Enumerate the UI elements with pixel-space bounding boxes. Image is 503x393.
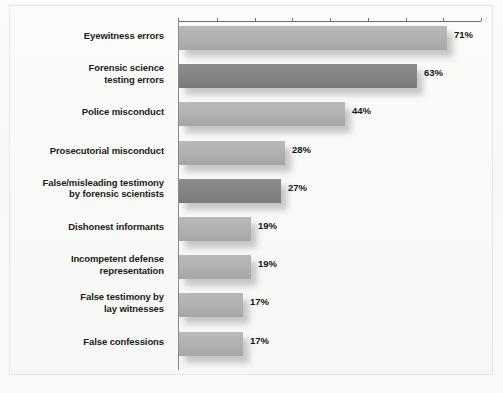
bar-row: Forensic sciencetesting errors63% bbox=[0, 62, 503, 100]
axis-tick-20 bbox=[255, 18, 256, 21]
bar[interactable] bbox=[179, 255, 251, 279]
bar-row: False/misleading testimonyby forensic sc… bbox=[0, 177, 503, 215]
bar-row: Police misconduct44% bbox=[0, 100, 503, 138]
category-label: Eyewitness errors bbox=[14, 30, 164, 42]
bar-chart: Eyewitness errors71%Forensic sciencetest… bbox=[0, 0, 503, 372]
bar[interactable] bbox=[179, 64, 417, 88]
category-label-line1: Dishonest informants bbox=[14, 221, 164, 233]
bar-value-label: 44% bbox=[352, 105, 371, 116]
category-label: Dishonest informants bbox=[14, 221, 164, 233]
bar-value-label: 28% bbox=[292, 144, 311, 155]
bar-value-label: 27% bbox=[288, 182, 307, 193]
bar-value-label: 17% bbox=[250, 335, 269, 346]
bar[interactable] bbox=[179, 179, 281, 203]
category-label: Prosecutorial misconduct bbox=[14, 145, 164, 157]
category-label-line1: False testimony by bbox=[14, 291, 164, 303]
bar-container[interactable] bbox=[179, 179, 281, 203]
category-label-line1: Prosecutorial misconduct bbox=[14, 145, 164, 157]
category-label-line1: Incompetent defense bbox=[14, 253, 164, 265]
bar-value-label: 71% bbox=[454, 29, 473, 40]
bar-row: Incompetent defenserepresentation19% bbox=[0, 253, 503, 291]
bar-container[interactable] bbox=[179, 64, 417, 88]
category-label: False testimony bylay witnesses bbox=[14, 291, 164, 314]
bar-container[interactable] bbox=[179, 102, 345, 126]
bar-container[interactable] bbox=[179, 255, 251, 279]
axis-tick-40 bbox=[330, 18, 331, 21]
category-label-line2: testing errors bbox=[14, 74, 164, 86]
bar[interactable] bbox=[179, 141, 285, 165]
bar-row: False testimony bylay witnesses17% bbox=[0, 291, 503, 329]
category-label: False confessions bbox=[14, 336, 164, 348]
bar-container[interactable] bbox=[179, 293, 243, 317]
axis-tick-50 bbox=[368, 18, 369, 21]
axis-tick-70 bbox=[443, 18, 444, 21]
category-label-line1: Police misconduct bbox=[14, 106, 164, 118]
top-axis-line bbox=[178, 21, 481, 22]
category-label-line1: False/misleading testimony bbox=[14, 177, 164, 189]
category-label-line1: Eyewitness errors bbox=[14, 30, 164, 42]
bar-row: Prosecutorial misconduct28% bbox=[0, 139, 503, 177]
axis-tick-30 bbox=[292, 18, 293, 21]
category-label-line2: lay witnesses bbox=[14, 303, 164, 315]
bar[interactable] bbox=[179, 217, 251, 241]
bar-container[interactable] bbox=[179, 217, 251, 241]
category-label: Forensic sciencetesting errors bbox=[14, 62, 164, 85]
bar[interactable] bbox=[179, 26, 447, 50]
bar-row: Dishonest informants19% bbox=[0, 215, 503, 253]
bar-container[interactable] bbox=[179, 332, 243, 356]
category-label-line2: representation bbox=[14, 265, 164, 277]
category-label-line1: Forensic science bbox=[14, 62, 164, 74]
category-label-line2: by forensic scientists bbox=[14, 188, 164, 200]
category-label-line1: False confessions bbox=[14, 336, 164, 348]
category-label: Incompetent defenserepresentation bbox=[14, 253, 164, 276]
bar-row: False confessions17% bbox=[0, 330, 503, 368]
axis-tick-80 bbox=[481, 18, 482, 21]
axis-tick-60 bbox=[406, 18, 407, 21]
axis-tick-10 bbox=[217, 18, 218, 21]
bar-value-label: 17% bbox=[250, 296, 269, 307]
category-label: False/misleading testimonyby forensic sc… bbox=[14, 177, 164, 200]
bar[interactable] bbox=[179, 102, 345, 126]
bar[interactable] bbox=[179, 293, 243, 317]
bar-container[interactable] bbox=[179, 26, 447, 50]
bar-value-label: 63% bbox=[424, 67, 443, 78]
bar-container[interactable] bbox=[179, 141, 285, 165]
bar-value-label: 19% bbox=[258, 220, 277, 231]
chart-page: Eyewitness errors71%Forensic sciencetest… bbox=[0, 0, 503, 393]
bar[interactable] bbox=[179, 332, 243, 356]
bar-row: Eyewitness errors71% bbox=[0, 24, 503, 62]
category-label: Police misconduct bbox=[14, 106, 164, 118]
bar-value-label: 19% bbox=[258, 258, 277, 269]
